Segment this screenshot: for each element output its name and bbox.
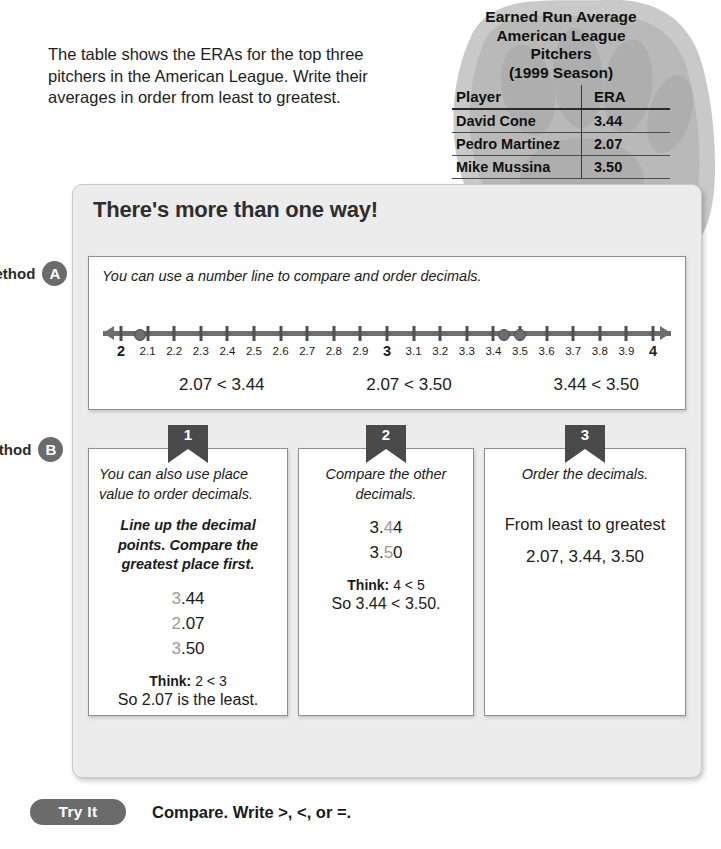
era-title-line-1: Earned Run Average: [452, 8, 670, 27]
stacked-number: 3.50: [171, 636, 204, 661]
number-line-tick-label: 2.4: [219, 345, 235, 357]
number-line-tick-label: 4: [649, 343, 657, 359]
number-line-tick-label: 2.2: [166, 345, 182, 357]
step-2-conclusion: So 3.44 < 3.50.: [309, 595, 463, 613]
number-line-point: [134, 329, 146, 341]
era-table: Player ERA David Cone 3.44 Pedro Martine…: [452, 85, 670, 179]
number-line-tick: [545, 326, 548, 341]
step-number-badge-3: 3: [565, 425, 605, 449]
arrow-right-icon: [660, 326, 671, 340]
number-line-tick-label: 2.1: [140, 345, 156, 357]
number-line-tick-label: 3.2: [432, 345, 448, 357]
comparison-statement: 2.07 < 3.44: [179, 375, 265, 395]
number-line-tick: [226, 326, 229, 341]
number-line-tick-label: 2.9: [352, 345, 368, 357]
number-line-tick: [332, 326, 335, 341]
number-line-tick-label: 3.7: [565, 345, 581, 357]
era-title-line-4: (1999 Season): [452, 64, 670, 83]
think-label: Think:: [347, 577, 389, 593]
step-card-3: 3 Order the decimals. From least to grea…: [484, 448, 686, 716]
column-header-player: Player: [452, 85, 582, 109]
cell-player: Pedro Martinez: [452, 133, 582, 156]
column-header-era: ERA: [582, 85, 671, 109]
step-number-badge-2: 2: [366, 425, 406, 449]
step-2-lead: Compare the other decimals.: [309, 465, 463, 504]
try-it-row: Try It Compare. Write >, <, or =.: [30, 799, 351, 825]
stacked-number: 3.44: [171, 586, 204, 611]
method-a-instruction: You can use a number line to compare and…: [102, 266, 522, 286]
method-b-badge: B: [38, 437, 63, 462]
number-line-tick-label: 2.8: [326, 345, 342, 357]
number-line-tick: [572, 326, 575, 341]
number-line-tick-label: 2: [117, 343, 125, 359]
cell-era: 3.44: [582, 109, 671, 133]
table-row: Pedro Martinez 2.07: [452, 133, 670, 156]
number-line-tick: [465, 326, 468, 341]
method-a-card: You can use a number line to compare and…: [88, 256, 686, 410]
cell-era: 3.50: [582, 156, 671, 179]
number-line-tick: [492, 326, 495, 341]
number-line-tick-label: 3.5: [512, 345, 528, 357]
number-line-tick: [306, 326, 309, 341]
step-1-lead: You can also use place value to order de…: [99, 465, 277, 504]
number-line-tick: [146, 326, 149, 341]
number-line-tick-label: 2.5: [246, 345, 262, 357]
era-title-line-2: American League: [452, 27, 670, 46]
number-line-tick-label: 2.7: [299, 345, 315, 357]
cell-player: Mike Mussina: [452, 156, 582, 179]
number-line-point: [514, 329, 526, 341]
step-2-body: Compare the other decimals. 3.44 3.50 Th…: [299, 449, 473, 613]
step-3-answer: 2.07, 3.44, 3.50: [495, 547, 675, 567]
number-line-tick: [412, 326, 415, 341]
think-label: Think:: [149, 673, 191, 689]
era-title-line-3: Pitchers: [452, 45, 670, 64]
number-line-tick-label: 3.8: [592, 345, 608, 357]
number-line-tick-label: 3: [383, 343, 391, 359]
cell-player: David Cone: [452, 109, 582, 133]
number-line-tick: [279, 326, 282, 341]
try-it-instruction: Compare. Write >, <, or =.: [152, 803, 351, 822]
table-row: Mike Mussina 3.50: [452, 156, 670, 179]
number-line-tick-label: 3.9: [618, 345, 634, 357]
method-b-label: Method B: [0, 437, 63, 462]
step-3-plain: From least to greatest: [495, 515, 675, 534]
method-b-label-text: Method: [0, 441, 31, 458]
number-line-tick-label: 2.6: [273, 345, 289, 357]
step-3-lead: Order the decimals.: [495, 465, 675, 485]
comparison-statements: 2.07 < 3.44 2.07 < 3.50 3.44 < 3.50: [179, 375, 639, 395]
try-it-badge: Try It: [30, 799, 126, 825]
number-line-tick-label: 3.6: [539, 345, 555, 357]
step-2-number-stack: 3.44 3.50: [369, 515, 402, 565]
think-value: 2 < 3: [195, 673, 227, 689]
step-number-badge-1: 1: [168, 425, 208, 449]
number-line-point: [498, 329, 510, 341]
era-table-block: Earned Run Average American League Pitch…: [452, 8, 670, 179]
table-header-row: Player ERA: [452, 85, 670, 109]
number-line-chart: 22.12.22.32.42.52.62.72.82.933.13.23.33.…: [103, 319, 671, 365]
number-line-tick: [598, 326, 601, 341]
number-line-tick: [253, 326, 256, 341]
stacked-number: 2.07: [171, 611, 204, 636]
intro-paragraph: The table shows the ERAs for the top thr…: [48, 44, 420, 109]
step-1-sub: Line up the decimal points. Compare the …: [99, 516, 277, 575]
step-3-body: Order the decimals. From least to greate…: [485, 449, 685, 567]
number-line-tick-label: 3.4: [485, 345, 501, 357]
era-table-title: Earned Run Average American League Pitch…: [452, 8, 670, 82]
table-row: David Cone 3.44: [452, 109, 670, 133]
step-2-think: Think: 4 < 5: [309, 577, 463, 593]
step-1-conclusion: So 2.07 is the least.: [99, 691, 277, 709]
number-line-tick: [386, 326, 389, 341]
method-a-label-text: Method: [0, 265, 35, 282]
comparison-statement: 3.44 < 3.50: [553, 375, 639, 395]
number-line-tick: [359, 326, 362, 341]
panel-heading: There's more than one way!: [93, 197, 378, 223]
step-card-2: 2 Compare the other decimals. 3.44 3.50 …: [298, 448, 474, 716]
arrow-left-icon: [103, 326, 114, 340]
number-line-tick: [439, 326, 442, 341]
number-line-tick: [625, 326, 628, 341]
number-line-tick: [652, 326, 655, 341]
number-line-tick: [120, 326, 123, 341]
number-line-tick-label: 2.3: [193, 345, 209, 357]
number-line-tick-label: 3.3: [459, 345, 475, 357]
step-1-think: Think: 2 < 3: [99, 673, 277, 689]
